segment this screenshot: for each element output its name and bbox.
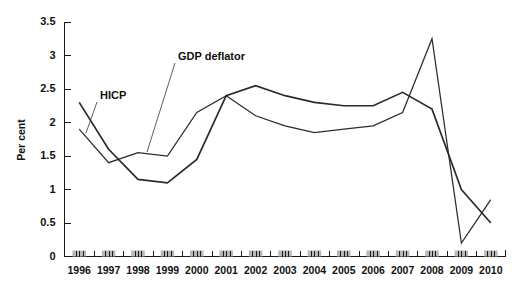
x-tick-block: [249, 251, 263, 257]
x-tick-label: 2008: [420, 264, 444, 276]
y-tick-label: 1: [49, 183, 55, 195]
x-tick-block: [337, 251, 351, 257]
y-tick-label: 0: [49, 250, 55, 262]
x-tick-label: 2005: [332, 264, 356, 276]
x-tick-block: [396, 251, 410, 257]
x-tick-label: 1999: [156, 264, 180, 276]
x-tick-label: 2007: [391, 264, 415, 276]
x-tick-label: 2010: [479, 264, 503, 276]
x-tick-label: 1998: [126, 264, 150, 276]
x-axis-ticks: [72, 251, 497, 257]
x-tick-block: [484, 251, 498, 257]
x-tick-label: 2002: [244, 264, 268, 276]
x-tick-block: [102, 251, 116, 257]
annotation-label-gdp-deflator: GDP deflator: [178, 50, 246, 62]
x-axis-labels: 1996199719981999200020012002200320042005…: [68, 264, 503, 276]
x-tick-label: 2001: [215, 264, 239, 276]
chart-figure: 00.511.522.533.5 19961997199819992000200…: [0, 0, 525, 295]
inflation-line-chart: 00.511.522.533.5 19961997199819992000200…: [0, 0, 525, 295]
y-tick-label: 3.5: [40, 15, 55, 27]
y-axis-title-group: Per cent: [15, 119, 27, 161]
x-tick-label: 1997: [97, 264, 121, 276]
y-axis-title: Per cent: [15, 119, 27, 161]
x-tick-label: 2003: [273, 264, 297, 276]
x-tick-label: 2006: [362, 264, 386, 276]
x-tick-label: 2004: [303, 264, 327, 276]
y-tick-label: 3: [49, 49, 55, 61]
x-tick-block: [190, 251, 204, 257]
y-tick-label: 1.5: [40, 149, 55, 161]
x-tick-label: 2009: [450, 264, 474, 276]
y-tick-label: 2: [49, 116, 55, 128]
annotation-label-hicp: HICP: [100, 89, 126, 101]
y-tick-label: 0.5: [40, 216, 55, 228]
y-tick-label: 2.5: [40, 82, 55, 94]
x-tick-label: 2000: [185, 264, 209, 276]
x-tick-label: 1996: [68, 264, 92, 276]
